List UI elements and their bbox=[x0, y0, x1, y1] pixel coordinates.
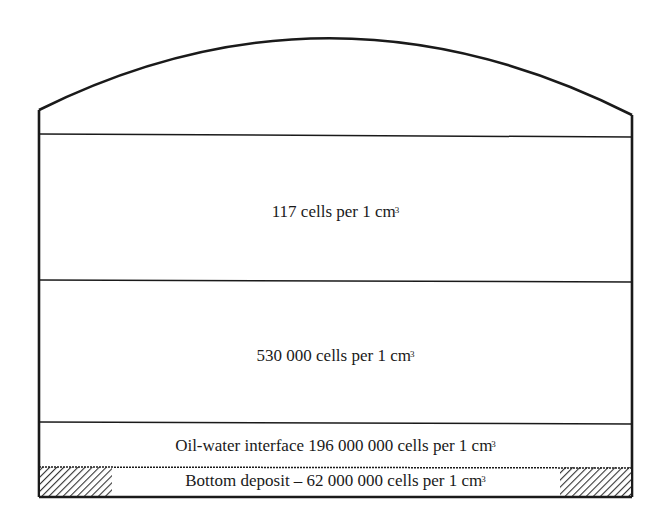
label-upper-fuel-layer: 117 cells per 1 cm3 bbox=[39, 202, 632, 222]
label-lower-fuel-layer: 530 000 cells per 1 cm3 bbox=[39, 346, 632, 366]
divider-top bbox=[39, 134, 632, 137]
divider-interface bbox=[39, 422, 632, 424]
label-oil-water-interface: Oil-water interface 196 000 000 cells pe… bbox=[39, 436, 632, 456]
divider-middle bbox=[39, 280, 632, 282]
tank-roof-dome bbox=[39, 38, 632, 115]
label-bottom-deposit: Bottom deposit – 62 000 000 cells per 1 … bbox=[39, 471, 632, 491]
bottom-deposit-top-line bbox=[39, 467, 632, 468]
